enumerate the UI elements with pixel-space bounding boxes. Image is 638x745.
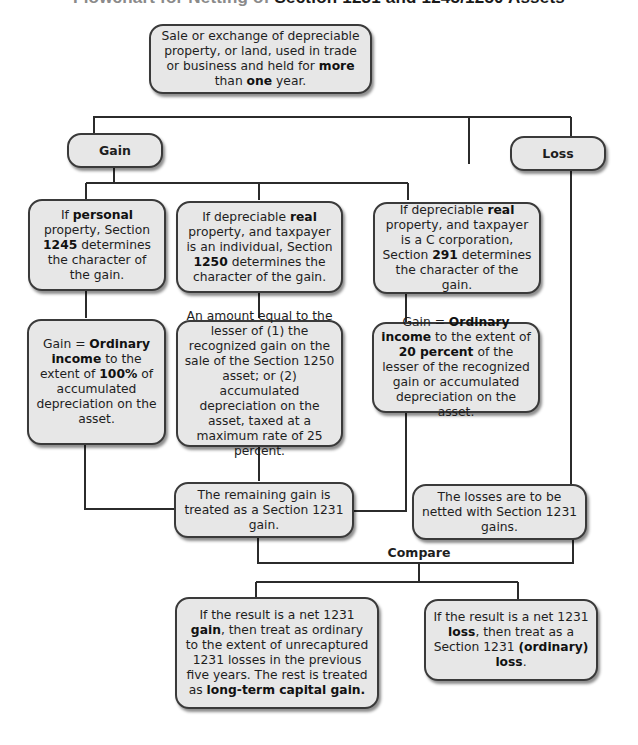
losses-netted-box: The losses are to be netted with Section… <box>412 484 587 540</box>
emphasis-text: 100% <box>99 367 137 381</box>
compare-label: Compare <box>354 545 484 560</box>
treatment-1250-text: An amount equal to the lesser of (1) the… <box>184 309 335 459</box>
body-text: property, Section <box>44 223 150 237</box>
body-text: Gain = <box>402 315 448 329</box>
emphasis-text: real <box>290 210 317 224</box>
outcome-net-gain-box: If the result is a net 1231 gain, then t… <box>175 597 379 709</box>
gain-label: Gain <box>99 143 131 158</box>
connector-1245-to-remaining <box>85 444 176 509</box>
emphasis-text: more <box>319 59 355 73</box>
outcome-net-gain-text: If the result is a net 1231 gain, then t… <box>183 608 371 698</box>
emphasis-text: one <box>247 74 273 88</box>
body-text: The remaining gain is treated as a Secti… <box>185 488 344 532</box>
body-text: . <box>523 655 527 669</box>
treatment-291-box: Gain = Ordinary income to the extent of … <box>372 322 540 413</box>
outcome-net-loss-text: If the result is a net 1231 loss, then t… <box>432 610 590 670</box>
emphasis-text: personal <box>73 208 133 222</box>
loss-label: Loss <box>542 146 573 161</box>
emphasis-text: gain <box>191 623 221 637</box>
outcome-net-loss-box: If the result is a net 1231 loss, then t… <box>424 599 598 681</box>
body-text: Gain = <box>43 337 89 351</box>
remaining-gain-text: The remaining gain is treated as a Secti… <box>182 488 346 533</box>
condition-personal-text: If personal property, Section 1245 deter… <box>36 208 158 283</box>
connector-291-to-remaining <box>353 413 406 511</box>
start-text: Sale or exchange of depreciable property… <box>157 29 364 89</box>
body-text: property, and taxpayer is an individual,… <box>186 225 332 254</box>
body-text: If the result is a net 1231 <box>199 608 354 622</box>
treatment-1245-box: Gain = Ordinary income to the extent of … <box>27 319 166 445</box>
gain-box: Gain <box>67 133 163 168</box>
emphasis-text: loss <box>448 625 475 639</box>
emphasis-text: 20 percent <box>399 345 474 359</box>
treatment-1250-box: An amount equal to the lesser of (1) the… <box>176 320 343 447</box>
condition-real-individual-text: If depreciable real property, and taxpay… <box>184 210 335 285</box>
condition-real-corporation-text: If depreciable real property, and taxpay… <box>381 203 533 293</box>
emphasis-text: 1250 <box>194 255 228 269</box>
start-box: Sale or exchange of depreciable property… <box>149 24 372 94</box>
body-text: An amount equal to the lesser of (1) the… <box>185 309 335 458</box>
remaining-gain-box: The remaining gain is treated as a Secti… <box>174 482 354 538</box>
condition-personal-box: If personal property, Section 1245 deter… <box>28 199 166 291</box>
condition-real-individual-box: If depreciable real property, and taxpay… <box>176 201 343 293</box>
condition-real-corporation-box: If depreciable real property, and taxpay… <box>373 202 541 294</box>
body-text: If <box>61 208 73 222</box>
body-text: than <box>215 74 247 88</box>
body-text: If depreciable <box>400 203 488 217</box>
emphasis-text: 291 <box>432 248 458 262</box>
emphasis-text: 1245 <box>43 238 77 252</box>
body-text: If depreciable <box>202 210 290 224</box>
emphasis-text: long-term capital gain. <box>207 683 366 697</box>
treatment-291-text: Gain = Ordinary income to the extent of … <box>380 315 532 420</box>
body-text: The losses are to be netted with Section… <box>422 490 577 534</box>
body-text: If the result is a net 1231 <box>433 610 588 624</box>
losses-netted-text: The losses are to be netted with Section… <box>420 490 579 535</box>
treatment-1245-text: Gain = Ordinary income to the extent of … <box>35 337 158 427</box>
body-text: to the extent of <box>431 330 531 344</box>
loss-box: Loss <box>510 136 606 171</box>
emphasis-text: real <box>487 203 514 217</box>
body-text: year. <box>272 74 306 88</box>
